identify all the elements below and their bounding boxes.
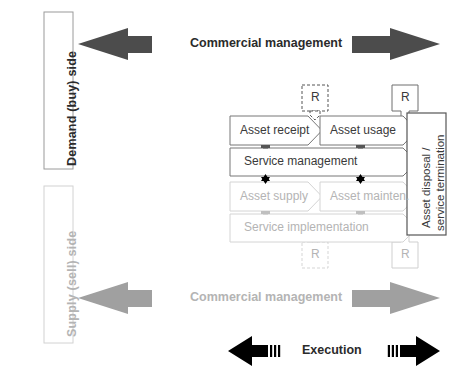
commercial-management-top-label: Commercial management [190, 37, 342, 50]
service-implementation-label: Service implementation [244, 221, 369, 233]
connector-receipt-service [261, 145, 270, 149]
execution-right-arrow [388, 336, 440, 366]
diagram-canvas: Demand (buy) side Supply (sell) side Com… [0, 0, 460, 377]
connector-maintenance-implementation [356, 211, 365, 215]
bottom-left-arrow [78, 282, 152, 314]
service-management-label: Service management [244, 155, 357, 167]
terminator-label-line1: Asset disposal / [421, 147, 433, 228]
demand-side-label: Demand (buy) side [66, 51, 79, 166]
top-right-arrow [352, 28, 440, 60]
connector-usage-service [356, 145, 365, 149]
review-marker-bottom-left-label: R [311, 248, 320, 260]
bottom-right-arrow [352, 282, 440, 314]
review-marker-bottom-right-label: R [401, 248, 410, 260]
terminator-label-line2: service termination [435, 134, 447, 231]
supply-side-label: Supply (sell) side [66, 231, 79, 337]
review-marker-top-left-label: R [311, 91, 320, 103]
connector-supply-implementation [261, 211, 270, 215]
asset-maintenance-label: Asset mainten. [330, 190, 409, 202]
execution-label: Execution [302, 344, 362, 357]
asset-receipt-label: Asset receipt [240, 124, 309, 136]
asset-supply-label: Asset supply [240, 190, 308, 202]
top-left-arrow [78, 28, 152, 60]
commercial-management-bottom-label: Commercial management [190, 291, 342, 304]
execution-left-arrow [228, 336, 280, 366]
review-marker-top-right-label: R [401, 91, 410, 103]
asset-usage-label: Asset usage [330, 124, 396, 136]
